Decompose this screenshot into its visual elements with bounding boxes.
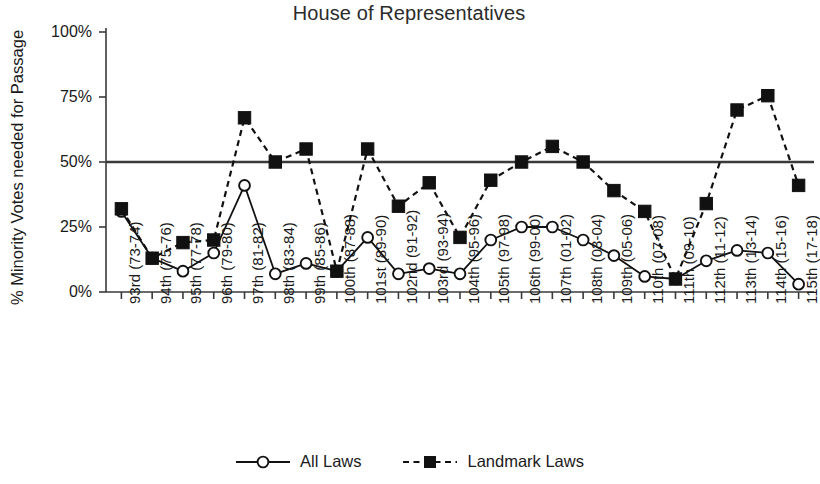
legend-label: All Laws (300, 452, 361, 471)
x-tick-label: 114th (15-16) (773, 215, 788, 304)
data-point (732, 245, 743, 256)
y-tick-label: 75% (36, 89, 92, 105)
data-point (115, 203, 127, 215)
legend-marker-open-circle-icon (234, 454, 292, 470)
x-tick-label: 115th (17-18) (804, 215, 819, 304)
x-tick-label: 99th (85-86) (312, 222, 327, 304)
data-point (515, 156, 527, 168)
x-tick-label: 109th (05-06) (619, 214, 634, 304)
chart-legend: All LawsLandmark Laws (0, 452, 818, 471)
chart-title: House of Representatives (0, 2, 818, 25)
x-tick-label: 97th (81-82) (250, 222, 265, 304)
data-point (762, 90, 774, 102)
legend-entry-2[interactable]: Landmark Laws (401, 452, 583, 471)
x-tick-label: 101st (89-90) (373, 215, 388, 304)
data-point (792, 179, 804, 191)
x-tick-label: 103rd (93-94) (435, 213, 450, 304)
y-tick-label: 50% (36, 154, 92, 170)
x-tick-label: 108th (03-04) (589, 214, 604, 304)
data-point (700, 197, 712, 209)
y-tick-label: 100% (36, 24, 92, 40)
data-point (608, 184, 620, 196)
y-axis-title: % Minority Votes needed for Passage (8, 3, 27, 333)
data-point (239, 180, 250, 191)
data-point (238, 112, 250, 124)
data-point (423, 177, 435, 189)
data-point (731, 104, 743, 116)
x-tick-label: 98th (83-84) (281, 222, 296, 304)
data-point (546, 140, 558, 152)
x-tick-label: 111th (09-10) (681, 216, 696, 304)
data-point (455, 268, 466, 279)
y-tick-label: 0% (36, 284, 92, 300)
data-point (578, 235, 589, 246)
x-tick-label: 112th (11-12) (712, 216, 727, 304)
x-tick-label: 105th (97-98) (496, 214, 511, 304)
x-tick-label: 95th (77-78) (188, 222, 203, 304)
y-tick-label: 25% (36, 219, 92, 235)
x-tick-label: 100th (87-88) (342, 214, 357, 304)
x-tick-label: 94th (75-76) (158, 222, 173, 304)
data-point (301, 258, 312, 269)
legend-entry-1[interactable]: All Laws (234, 452, 361, 471)
legend-label: Landmark Laws (467, 452, 583, 471)
x-tick-label: 107th (01-02) (558, 214, 573, 304)
data-point (361, 143, 373, 155)
x-tick-label: 110th (07-08) (650, 215, 665, 304)
data-point (269, 156, 281, 168)
data-point (300, 143, 312, 155)
x-tick-label: 104th (95-96) (466, 214, 481, 304)
x-tick-label: 106th (99-00) (527, 214, 542, 304)
data-point (424, 263, 435, 274)
x-tick-label: 102nd (91-92) (404, 210, 419, 304)
legend-marker-filled-square-icon (401, 454, 459, 470)
x-tick-label: 113th (13-14) (743, 215, 758, 304)
x-tick-label: 93rd (73-74) (127, 221, 142, 304)
data-point (577, 156, 589, 168)
data-point (485, 174, 497, 186)
x-tick-label: 96th (79-80) (219, 222, 234, 304)
